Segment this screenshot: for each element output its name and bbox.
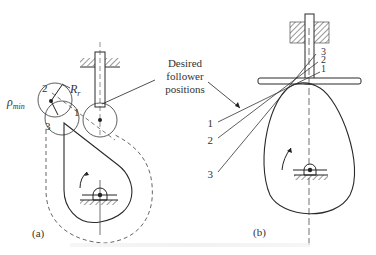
tangent-line-3: [218, 54, 316, 172]
position-label-1b-right: 1: [321, 63, 326, 74]
rho-min-label: ρmin: [6, 95, 25, 111]
faint-caption-strip: [70, 243, 310, 247]
cam-profile-a: [64, 123, 132, 222]
position-label-1a: 1: [74, 106, 80, 118]
callout-leader-left: [102, 80, 155, 104]
flat-follower-stem: [305, 14, 314, 84]
roller-radius-label: Rr: [69, 82, 81, 98]
cam-diagram: ρmin Rr 2 1 3 (a) Desired follower posit…: [0, 0, 376, 255]
svg-text:follower: follower: [166, 70, 204, 82]
pitch-curve-a: [46, 130, 152, 243]
cam-pivot-b: [293, 164, 328, 180]
position-label-3a: 3: [45, 120, 51, 132]
panel-label-b: (b): [253, 226, 266, 239]
position-label-3b-left: 3: [208, 168, 214, 180]
panel-label-a: (a): [32, 227, 45, 240]
position-label-1b-left: 1: [208, 117, 214, 129]
desired-follower-positions-callout: Desired follower positions: [102, 57, 240, 108]
svg-text:Desired: Desired: [168, 57, 203, 69]
callout-leader-right: [208, 82, 240, 108]
position-label-2b-left: 2: [208, 134, 214, 146]
panel-b: 1 2 3 3 2 1 (b): [208, 14, 362, 245]
cam-pivot-a: [80, 188, 118, 205]
position-label-2a: 2: [42, 82, 48, 94]
svg-text:positions: positions: [165, 83, 205, 95]
panel-a: ρmin Rr 2 1 3 (a): [6, 42, 152, 243]
